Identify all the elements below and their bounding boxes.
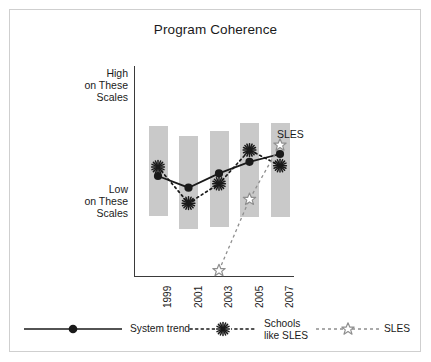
annotation-sles: SLES bbox=[277, 128, 304, 140]
legend-label-schools-like-sles: Schoolslike SLES bbox=[264, 318, 308, 341]
legend-label-system-trend: System trend bbox=[130, 323, 190, 335]
legend-item-sles[interactable]: SLES bbox=[314, 312, 431, 346]
x-axis-line bbox=[134, 276, 294, 277]
x-axis-tick-label: 1999 bbox=[162, 286, 173, 308]
plot-area bbox=[134, 66, 294, 278]
legend-swatch-schools-like-sles bbox=[188, 312, 260, 346]
legend-item-schools-like-sles[interactable]: Schoolslike SLES bbox=[188, 312, 328, 346]
chart-title: Program Coherence bbox=[0, 22, 431, 37]
legend-item-system-trend[interactable]: System trend bbox=[18, 312, 208, 346]
chart-legend: System trend bbox=[18, 312, 418, 346]
background-bar bbox=[210, 131, 229, 227]
chart-figure: Program Coherence Highon TheseScales Low… bbox=[0, 0, 431, 362]
background-bar bbox=[149, 126, 168, 217]
x-axis-tick-label: 2007 bbox=[284, 286, 295, 308]
x-axis-tick-label: 2003 bbox=[223, 286, 234, 308]
background-bar bbox=[240, 123, 259, 217]
legend-label-sles: SLES bbox=[384, 323, 410, 335]
x-axis-tick-label: 2001 bbox=[193, 286, 204, 308]
legend-swatch-sles bbox=[314, 312, 384, 346]
x-axis-tick-label: 2005 bbox=[254, 286, 265, 308]
y-axis-high-label: Highon TheseScales bbox=[40, 68, 128, 103]
y-axis-line bbox=[134, 66, 135, 277]
legend-swatch-system-trend bbox=[18, 312, 133, 346]
y-axis-low-label: Lowon TheseScales bbox=[40, 184, 128, 219]
background-bar bbox=[179, 136, 198, 229]
